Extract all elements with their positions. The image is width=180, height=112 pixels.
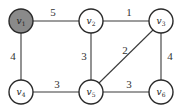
node-v4: v4: [9, 80, 33, 104]
weight-v2-v3: 1: [126, 6, 132, 18]
node-v6-sub: 6: [162, 91, 166, 98]
node-v5: v5: [79, 80, 103, 104]
node-v3-sub: 3: [162, 20, 166, 27]
weight-v1-v4: 4: [10, 50, 16, 62]
weight-v4-v5: 3: [54, 78, 60, 90]
graph-diagram: 5 1 4 3 2 4 3 3 v1 v2 v3 v4 v5: [0, 0, 180, 112]
weight-v3-v6: 4: [167, 50, 173, 62]
weight-v2-v5: 3: [81, 50, 87, 62]
edge-v3-v5: [99, 30, 153, 83]
node-v2: v2: [79, 9, 103, 33]
node-v6: v6: [149, 80, 173, 104]
node-v3: v3: [149, 9, 173, 33]
node-v1-sub: 1: [22, 20, 26, 27]
weight-v1-v2: 5: [50, 6, 56, 18]
node-v5-sub: 5: [92, 91, 96, 98]
node-v2-sub: 2: [92, 20, 96, 27]
weight-v3-v5: 2: [122, 44, 128, 56]
node-v4-sub: 4: [22, 91, 26, 98]
weight-v5-v6: 3: [126, 78, 132, 90]
node-v1: v1: [9, 9, 33, 33]
